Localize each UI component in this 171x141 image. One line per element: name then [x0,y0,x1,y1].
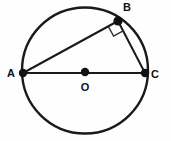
label-center-o: O [81,81,90,93]
label-point-b: B [123,1,131,13]
label-point-c: C [151,68,159,80]
vertex-dot-a [19,69,27,77]
diagram-canvas: A B C O [0,0,171,141]
label-point-a: A [7,67,15,79]
center-dot-o [81,68,89,76]
vertex-dot-b [113,16,122,25]
vertex-dot-c [141,69,149,77]
geometry-figure: A B C O [0,0,171,141]
